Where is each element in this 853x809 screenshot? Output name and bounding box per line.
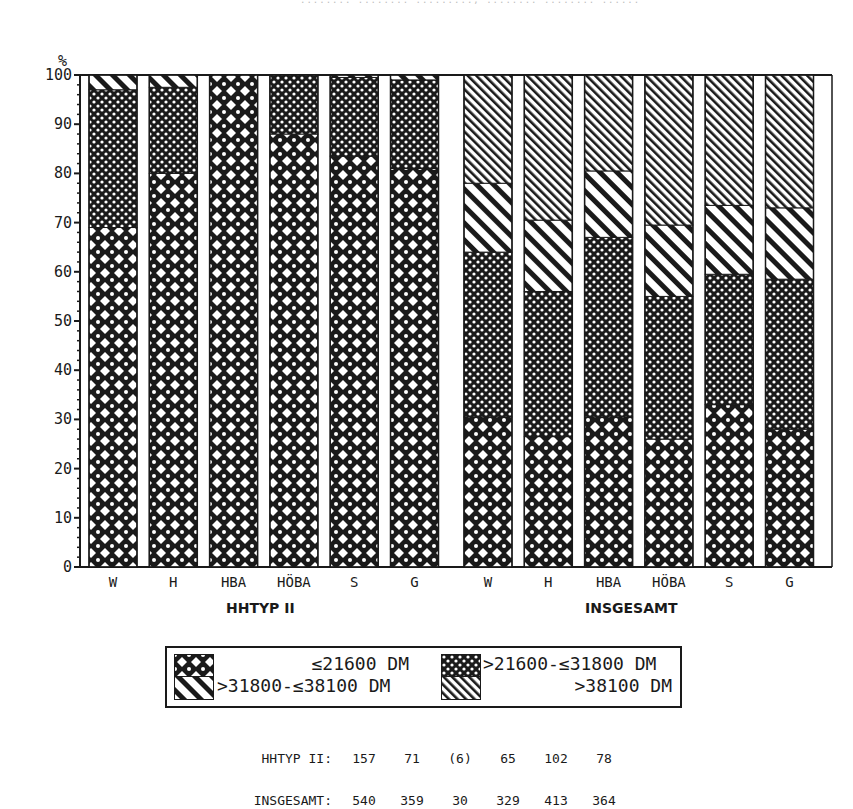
bar-segment — [464, 417, 512, 567]
bar-segment — [585, 417, 633, 567]
category-label: H — [544, 574, 552, 590]
y-tick-label: 100 — [45, 66, 72, 84]
bar-segment — [585, 171, 633, 237]
category-label: HÖBA — [652, 573, 686, 590]
bar-groups — [89, 75, 814, 567]
count-value: 364 — [580, 794, 628, 808]
count-value: 65 — [484, 752, 532, 766]
count-value: 102 — [532, 752, 580, 766]
category-label: H — [169, 574, 177, 590]
legend-swatch-second-income — [441, 654, 481, 678]
bar-segment — [89, 75, 137, 90]
bar-segment — [464, 183, 512, 252]
category-label: HBA — [596, 574, 622, 590]
bar-segment — [645, 225, 693, 296]
legend-label-second-income: >21600-≤31800 DM — [483, 654, 656, 674]
bar-segment — [391, 168, 439, 567]
y-axis-ticks: 0102030405060708090100 — [45, 66, 80, 576]
y-tick-label: 30 — [54, 410, 72, 428]
bar-segment — [330, 77, 378, 156]
bar-segment — [524, 437, 572, 567]
y-tick-label: 0 — [63, 558, 72, 576]
bar-segment — [149, 87, 197, 173]
bar-segment — [330, 156, 378, 567]
stacked-bar-chart: % 0102030405060708090100 WHHBAHÖBASGWHHB… — [0, 0, 853, 640]
count-value: 30 — [436, 794, 484, 808]
bar-segment — [766, 208, 814, 279]
count-row-hhtyp: HHTYP II: 157 71 (6) 65 102 78 — [228, 752, 628, 766]
y-tick-label: 70 — [54, 214, 72, 232]
count-value: 359 — [388, 794, 436, 808]
count-row-label: HHTYP II: — [228, 752, 340, 766]
category-labels: WHHBAHÖBASGWHHBAHÖBASG — [109, 573, 794, 590]
bar-segment — [645, 439, 693, 567]
bar-segment — [524, 75, 572, 220]
category-label: W — [109, 574, 118, 590]
legend-label-lowest-income: ≤21600 DM — [311, 654, 409, 674]
bar-segment — [766, 279, 814, 429]
legend-label-highest-income: >38100 DM — [574, 676, 672, 696]
y-tick-label: 20 — [54, 460, 72, 478]
group-label-hhtyp: HHTYP II — [226, 600, 295, 616]
count-value: 71 — [388, 752, 436, 766]
bar-segment — [766, 429, 814, 567]
count-row-label: INSGESAMT: — [228, 794, 340, 808]
count-row-insgesamt: INSGESAMT: 540 359 30 329 413 364 — [228, 794, 628, 808]
y-tick-label: 40 — [54, 361, 72, 379]
bar-segment — [391, 80, 439, 169]
bar-segment — [705, 75, 753, 205]
bar-segment — [89, 228, 137, 567]
count-value: 329 — [484, 794, 532, 808]
bar-segment — [149, 75, 197, 87]
bar-segment — [210, 75, 258, 567]
y-tick-label: 90 — [54, 115, 72, 133]
legend-swatch-third-income — [174, 676, 214, 700]
bar-segment — [705, 205, 753, 274]
legend-label-third-income: >31800-≤38100 DM — [217, 676, 390, 696]
legend-box: ≤21600 DM >31800-≤38100 DM >21600-≤31800… — [165, 646, 682, 708]
y-tick-label: 50 — [54, 312, 72, 330]
bar-segment — [705, 274, 753, 404]
bar-segment — [705, 405, 753, 567]
count-value: 78 — [580, 752, 628, 766]
group-label-insgesamt: INSGESAMT — [585, 600, 678, 616]
bar-segment — [464, 75, 512, 183]
category-label: S — [725, 574, 733, 590]
legend-swatch-highest-income — [441, 676, 481, 700]
y-tick-label: 10 — [54, 509, 72, 527]
count-value: 157 — [340, 752, 388, 766]
bar-segment — [645, 75, 693, 225]
legend-swatch-lowest-income — [174, 654, 214, 678]
sample-size-table: HHTYP II: 157 71 (6) 65 102 78 INSGESAMT… — [228, 724, 628, 809]
bar-segment — [270, 134, 318, 567]
category-label: HÖBA — [277, 573, 311, 590]
bar-segment — [464, 252, 512, 417]
count-value: 413 — [532, 794, 580, 808]
category-label: G — [410, 574, 418, 590]
bar-segment — [89, 90, 137, 228]
bar-segment — [149, 173, 197, 567]
category-label: G — [785, 574, 793, 590]
category-label: S — [350, 574, 358, 590]
category-label: HBA — [221, 574, 247, 590]
bar-segment — [524, 291, 572, 436]
bar-segment — [270, 75, 318, 134]
category-label: W — [484, 574, 493, 590]
y-tick-label: 60 — [54, 263, 72, 281]
bar-segment — [766, 75, 814, 208]
count-value: 540 — [340, 794, 388, 808]
bar-segment — [645, 296, 693, 439]
y-tick-label: 80 — [54, 164, 72, 182]
bar-segment — [524, 220, 572, 291]
bar-segment — [585, 75, 633, 171]
count-value: (6) — [436, 752, 484, 766]
bar-segment — [585, 237, 633, 417]
